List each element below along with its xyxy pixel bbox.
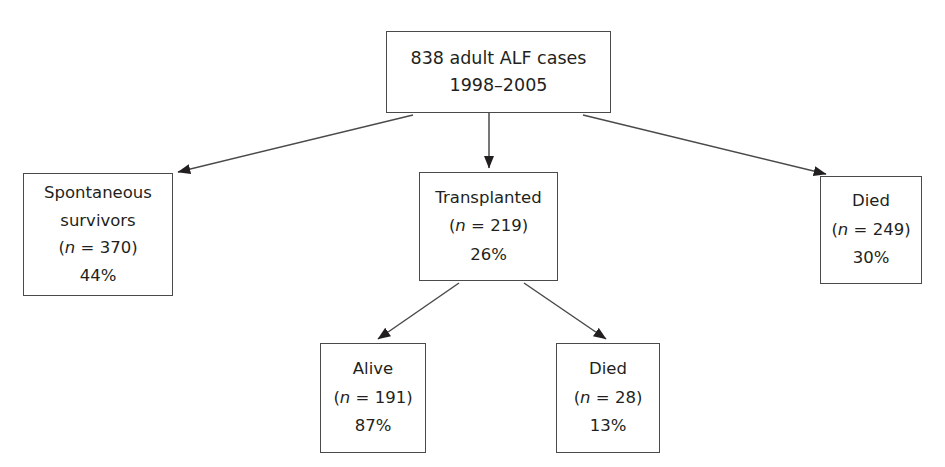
node-spontaneous-line-2: survivors <box>60 213 135 230</box>
node-root-line-2: 1998–2005 <box>450 77 548 95</box>
n-symbol: n <box>838 220 848 239</box>
node-transplanted-percent: 26% <box>470 247 507 264</box>
edge-root-to-died-overall <box>583 115 826 174</box>
node-spontaneous-line-1: Spontaneous <box>44 185 152 202</box>
node-spontaneous-count: (n = 370) <box>58 240 137 257</box>
node-died-overall-line-1: Died <box>852 193 890 210</box>
n-value: = 191) <box>350 388 412 407</box>
node-root-line-1: 838 adult ALF cases <box>411 50 587 68</box>
n-symbol: n <box>455 216 465 235</box>
n-symbol: n <box>580 388 590 407</box>
n-symbol: n <box>340 388 350 407</box>
node-died-post-count: (n = 28) <box>574 390 643 407</box>
node-root-cohort[interactable]: 838 adult ALF cases 1998–2005 <box>386 31 611 113</box>
node-died-overall[interactable]: Died (n = 249) 30% <box>820 176 922 284</box>
node-died-overall-percent: 30% <box>853 250 890 267</box>
n-value: = 249) <box>848 220 910 239</box>
edge-transplanted-to-died-post <box>524 283 606 339</box>
node-alive[interactable]: Alive (n = 191) 87% <box>320 343 426 453</box>
n-value: = 219) <box>466 216 528 235</box>
node-alive-count: (n = 191) <box>333 390 412 407</box>
node-spontaneous-survivors[interactable]: Spontaneous survivors (n = 370) 44% <box>23 173 173 296</box>
node-transplanted[interactable]: Transplanted (n = 219) 26% <box>419 172 558 281</box>
node-died-post-transplant[interactable]: Died (n = 28) 13% <box>556 343 660 453</box>
node-spontaneous-percent: 44% <box>80 268 117 285</box>
node-alive-percent: 87% <box>355 418 392 435</box>
flowchart-canvas: 838 adult ALF cases 1998–2005 Spontaneou… <box>0 0 945 467</box>
node-transplanted-count: (n = 219) <box>449 218 528 235</box>
n-symbol: n <box>65 238 75 257</box>
node-alive-line-1: Alive <box>353 361 393 378</box>
node-transplanted-line-1: Transplanted <box>435 190 541 207</box>
node-died-post-percent: 13% <box>590 418 627 435</box>
n-value: = 28) <box>591 388 643 407</box>
n-value: = 370) <box>75 238 137 257</box>
edge-transplanted-to-alive <box>378 283 459 339</box>
node-died-post-line-1: Died <box>589 361 627 378</box>
edge-root-to-spontaneous <box>178 115 413 172</box>
node-died-overall-count: (n = 249) <box>831 222 910 239</box>
